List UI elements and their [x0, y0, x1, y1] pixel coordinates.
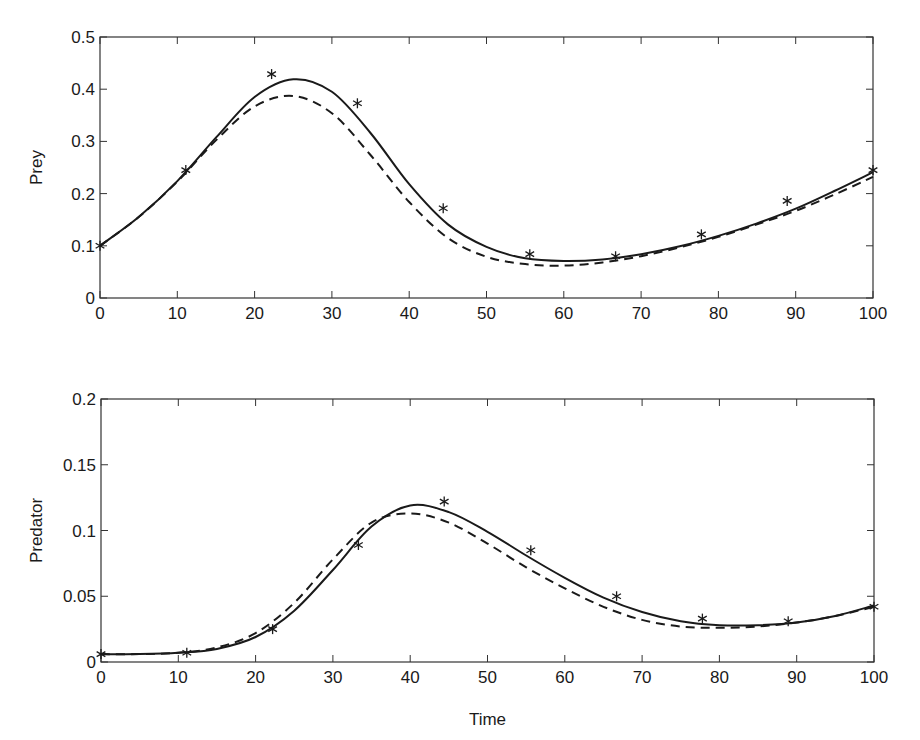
asterisk-marker-icon — [440, 497, 449, 507]
x-tick-label: 50 — [477, 304, 496, 323]
asterisk-marker-icon — [612, 591, 621, 601]
x-tick-label: 100 — [860, 668, 888, 687]
y-tick-label: 0.3 — [71, 132, 95, 151]
y-tick-label: 0.05 — [63, 587, 96, 606]
x-tick-label: 40 — [401, 668, 420, 687]
figure: 010203040506070809010000.10.20.30.40.5Pr… — [0, 0, 920, 740]
x-tick-label: 70 — [633, 668, 652, 687]
x-tick-label: 100 — [859, 304, 887, 323]
asterisk-marker-icon — [354, 540, 363, 550]
dashed-curve — [100, 96, 873, 266]
x-tick-label: 20 — [245, 304, 264, 323]
x-tick-label: 60 — [555, 668, 574, 687]
y-tick-label: 0.15 — [63, 456, 96, 475]
solid-curve — [101, 505, 874, 654]
axes-frame — [101, 399, 874, 662]
asterisk-marker-icon — [267, 69, 276, 79]
y-tick-label: 0.2 — [72, 390, 96, 409]
x-tick-label: 30 — [323, 668, 342, 687]
y-tick-label: 0.1 — [71, 237, 95, 256]
dashed-curve — [101, 513, 874, 654]
x-tick-label: 80 — [709, 304, 728, 323]
solid-curve — [100, 79, 873, 261]
x-tick-label: 60 — [554, 304, 573, 323]
asterisk-marker-icon — [181, 165, 190, 175]
x-tick-label: 10 — [168, 304, 187, 323]
x-tick-label: 80 — [710, 668, 729, 687]
asterisk-marker-icon — [697, 229, 706, 239]
y-tick-label: 0 — [87, 653, 96, 672]
x-tick-label: 0 — [95, 304, 104, 323]
x-tick-label: 90 — [786, 304, 805, 323]
y-tick-label: 0.5 — [71, 28, 95, 47]
x-tick-label: 70 — [632, 304, 651, 323]
x-tick-label: 20 — [246, 668, 265, 687]
asterisk-marker-icon — [439, 203, 448, 213]
x-tick-label: 50 — [478, 668, 497, 687]
y-axis-label: Predator — [27, 498, 46, 564]
x-tick-label: 40 — [400, 304, 419, 323]
x-tick-label: 0 — [96, 668, 105, 687]
asterisk-marker-icon — [784, 616, 793, 626]
asterisk-marker-icon — [353, 98, 362, 108]
prey-plot: 010203040506070809010000.10.20.30.40.5Pr… — [27, 28, 887, 323]
y-tick-label: 0.2 — [71, 185, 95, 204]
asterisk-marker-icon — [611, 251, 620, 261]
y-tick-label: 0 — [86, 289, 95, 308]
y-axis-label: Prey — [27, 150, 46, 185]
asterisk-marker-icon — [783, 196, 792, 206]
x-tick-label: 30 — [322, 304, 341, 323]
y-tick-label: 0.4 — [71, 80, 95, 99]
x-axis-label: Time — [469, 710, 506, 729]
asterisk-marker-icon — [698, 614, 707, 624]
y-tick-label: 0.1 — [72, 522, 96, 541]
x-tick-label: 10 — [169, 668, 188, 687]
axes-frame — [100, 37, 873, 298]
asterisk-marker-icon — [526, 545, 535, 555]
predator-plot: 010203040506070809010000.050.10.150.2Pre… — [27, 390, 888, 729]
x-tick-label: 90 — [787, 668, 806, 687]
